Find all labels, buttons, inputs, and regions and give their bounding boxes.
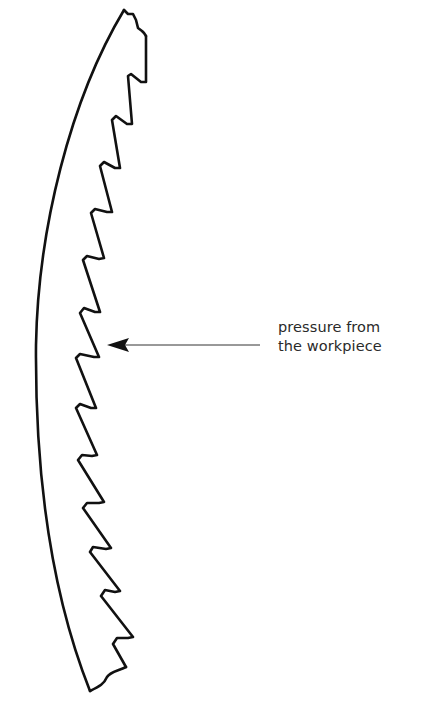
saw-blade [36,10,146,691]
annotation-line-2: the workpiece [278,337,382,356]
saw-blade-diagram [0,0,423,719]
pressure-arrow [107,338,260,352]
blade-toothed-edge [76,36,146,667]
annotation-line-1: pressure from [278,318,382,337]
blade-bottom-break [90,667,126,691]
blade-top-break [124,10,146,36]
pressure-annotation: pressure from the workpiece [278,318,382,356]
blade-back-edge [36,10,124,691]
